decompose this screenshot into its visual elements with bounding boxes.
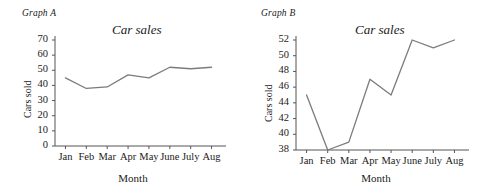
y-axis-tick-label: 50: [18, 63, 48, 74]
y-axis-tick-label: 40: [259, 127, 289, 138]
y-axis-tick-label: 70: [18, 33, 48, 44]
data-series-line: [65, 67, 211, 88]
graph-b-panel: Graph B Car sales Cars sold Month 384042…: [247, 0, 493, 193]
y-axis-tick-label: 10: [18, 124, 48, 135]
y-axis-tick-label: 38: [259, 143, 289, 154]
y-axis-tick-label: 44: [259, 96, 289, 107]
y-axis-tick-label: 48: [259, 64, 289, 75]
x-axis-tick-label: Aug: [436, 155, 472, 166]
x-axis-tick-label: Aug: [194, 151, 230, 162]
two-line-charts-figure: Graph A Car sales Cars sold Month 010203…: [0, 0, 493, 193]
y-axis-tick-label: 0: [18, 139, 48, 150]
y-axis-tick-label: 50: [259, 49, 289, 60]
y-axis-tick-label: 60: [18, 48, 48, 59]
graph-a-panel: Graph A Car sales Cars sold Month 010203…: [0, 0, 246, 193]
y-axis-tick-label: 40: [18, 78, 48, 89]
y-axis-tick-label: 20: [18, 109, 48, 120]
y-axis-tick-label: 42: [259, 112, 289, 123]
y-axis-tick-label: 30: [18, 94, 48, 105]
y-axis-tick-label: 52: [259, 33, 289, 44]
y-axis-tick-label: 46: [259, 80, 289, 91]
data-series-line: [307, 40, 455, 150]
